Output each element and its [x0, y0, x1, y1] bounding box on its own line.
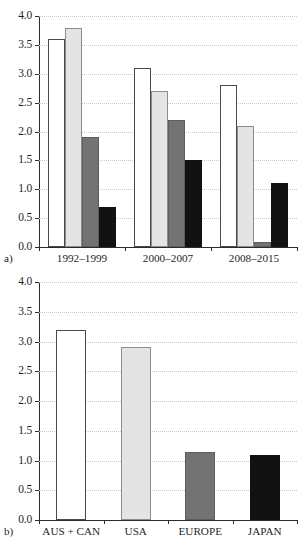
bar-b-japan[interactable] — [250, 455, 280, 520]
y-tick-label: 2.5 — [18, 97, 32, 109]
bar-b-usa[interactable] — [121, 347, 151, 520]
x-tick-mark — [233, 520, 234, 524]
y-tick-label: 3.0 — [18, 336, 32, 348]
x-tick-label-2000-2007: 2000–2007 — [125, 252, 211, 264]
bar-a-3-usa[interactable] — [237, 126, 254, 247]
bar-a-1-usa[interactable] — [65, 28, 82, 247]
y-tick-label: 1.0 — [18, 455, 32, 467]
bar-a-3-europe[interactable] — [254, 242, 271, 247]
bar-a-3-aus-can[interactable] — [220, 85, 237, 247]
bar-b-europe[interactable] — [185, 452, 215, 520]
bar-a-2-usa[interactable] — [151, 91, 168, 247]
y-tick-label: 3.5 — [18, 306, 32, 318]
bar-a-2-japan[interactable] — [185, 160, 202, 247]
bar-a-1-europe[interactable] — [82, 137, 99, 247]
x-tick-mark — [39, 520, 40, 524]
y-tick-label: 2.5 — [18, 365, 32, 377]
panel-b-label: b) — [4, 525, 13, 537]
x-tick-label-2008-2015: 2008–2015 — [211, 252, 297, 264]
x-tick-mark — [297, 520, 298, 524]
bar-b-aus-can[interactable] — [56, 330, 86, 520]
panel-b: b) 0.00.51.01.52.02.53.03.54.0AUS + CANU… — [0, 270, 305, 554]
y-tick-label: 0.5 — [18, 212, 32, 224]
figure-bar-charts: a) 0.00.51.01.52.02.53.03.54.01992–19992… — [0, 0, 305, 554]
x-tick-label-1992-1999: 1992–1999 — [39, 252, 125, 264]
bar-a-2-europe[interactable] — [168, 120, 185, 247]
x-tick-label-europe: EUROPE — [168, 525, 233, 537]
y-tick-label: 1.5 — [18, 154, 32, 166]
y-tick-label: 1.0 — [18, 183, 32, 195]
y-tick-label: 2.0 — [18, 126, 32, 138]
x-tick-mark — [211, 247, 212, 251]
bars-layer-b — [39, 282, 297, 520]
x-tick-label-aus-can: AUS + CAN — [39, 525, 104, 537]
x-tick-mark — [168, 520, 169, 524]
x-axis-line-a — [39, 247, 298, 248]
bars-layer-a — [39, 16, 297, 247]
plot-area-b — [39, 282, 297, 520]
panel-a: a) 0.00.51.01.52.02.53.03.54.01992–19992… — [0, 0, 305, 270]
bar-a-2-aus-can[interactable] — [134, 68, 151, 247]
y-tick-label: 4.0 — [18, 276, 32, 288]
y-tick-label: 0.0 — [18, 241, 32, 253]
y-tick-label: 0.5 — [18, 484, 32, 496]
x-tick-label-usa: USA — [104, 525, 169, 537]
bar-a-1-aus-can[interactable] — [48, 39, 65, 247]
plot-area-a — [39, 16, 297, 247]
y-tick-label: 3.5 — [18, 39, 32, 51]
y-tick-label: 1.5 — [18, 425, 32, 437]
y-tick-label: 2.0 — [18, 395, 32, 407]
bar-a-1-japan[interactable] — [99, 207, 116, 247]
x-tick-mark — [39, 247, 40, 251]
y-tick-label: 3.0 — [18, 68, 32, 80]
x-tick-mark — [297, 247, 298, 251]
x-tick-mark — [125, 247, 126, 251]
panel-a-label: a) — [4, 252, 13, 264]
x-tick-mark — [104, 520, 105, 524]
y-tick-label: 0.0 — [18, 514, 32, 526]
bar-a-3-japan[interactable] — [271, 183, 288, 247]
y-tick-label: 4.0 — [18, 10, 32, 22]
x-tick-label-japan: JAPAN — [233, 525, 298, 537]
